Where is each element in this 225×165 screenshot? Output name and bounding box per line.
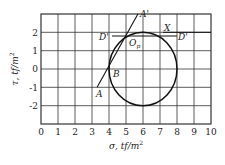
svg-text:-2: -2 (29, 101, 38, 111)
svg-text:1: 1 (55, 127, 61, 137)
svg-text:7: 7 (157, 127, 163, 137)
svg-text:0: 0 (38, 127, 44, 137)
y-axis-ticks: 2 1 0 -1 -2 (29, 28, 38, 112)
svg-text:10: 10 (205, 127, 217, 137)
svg-text:6: 6 (140, 127, 146, 137)
svg-text:2: 2 (72, 127, 78, 137)
svg-text:1: 1 (32, 46, 38, 56)
x-axis-label: σ, tf/m2 (109, 139, 143, 151)
grid (41, 14, 211, 124)
svg-text:0: 0 (32, 64, 38, 74)
svg-text:9: 9 (191, 127, 197, 137)
svg-text:4: 4 (106, 127, 112, 137)
label-a-prime: A' (139, 9, 149, 19)
label-x: X (163, 23, 171, 33)
label-o-p: Op (129, 38, 140, 50)
label-d-prime-left: D' (98, 32, 109, 42)
svg-text:5: 5 (123, 127, 129, 137)
svg-text:-1: -1 (29, 83, 38, 93)
label-b: B (112, 69, 120, 79)
x-axis-ticks: 0 1 2 3 4 5 6 7 8 9 10 (38, 127, 217, 137)
svg-text:2: 2 (32, 28, 38, 38)
svg-text:3: 3 (89, 127, 95, 137)
label-a: A (95, 89, 103, 99)
mohr-circle-chart: A' D' Op X D' B A 2 1 0 -1 -2 0 1 2 3 4 … (0, 0, 225, 165)
y-axis-label: τ, tf/m2 (8, 52, 20, 85)
label-d-prime-right: D' (177, 32, 188, 42)
svg-text:8: 8 (174, 127, 180, 137)
